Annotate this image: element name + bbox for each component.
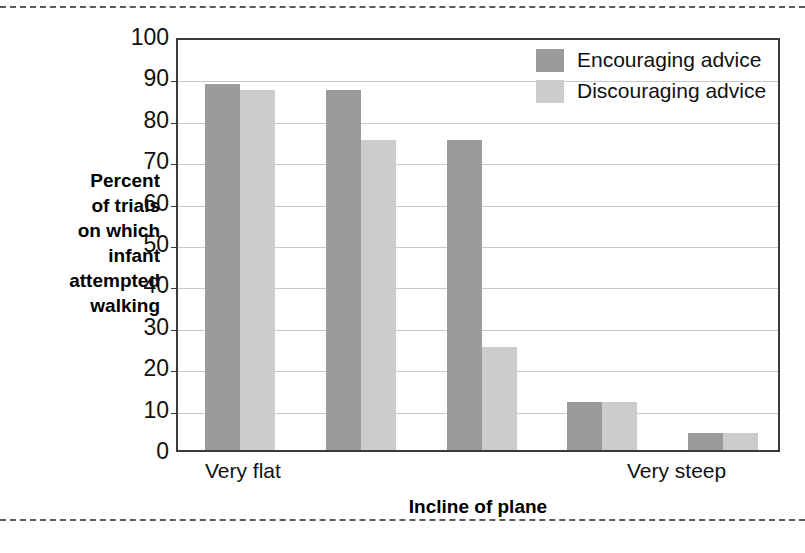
- y-axis-tick-label: 70: [49, 150, 169, 173]
- y-axis-tick-label: 80: [49, 109, 169, 132]
- legend-swatch-icon: [536, 49, 564, 72]
- legend-swatch-icon: [536, 80, 564, 103]
- y-axis-tick-label: 10: [49, 399, 169, 422]
- y-axis-tick-label: 60: [49, 192, 169, 215]
- y-axis-tick-label: 90: [49, 67, 169, 90]
- bar: [447, 140, 482, 451]
- y-axis-tick: [171, 413, 178, 414]
- y-axis-tick-label: 50: [49, 233, 169, 256]
- bar: [205, 84, 240, 450]
- legend-item-discouraging-advice: Discouraging advice: [536, 79, 766, 103]
- y-axis-tick-label: 20: [49, 357, 169, 380]
- y-axis-tick-label: 30: [49, 316, 169, 339]
- y-axis-tick: [171, 247, 178, 248]
- x-axis-title: Incline of plane: [176, 496, 780, 518]
- bar: [482, 347, 517, 451]
- y-axis-tick: [171, 330, 178, 331]
- y-axis-tick: [171, 123, 178, 124]
- bar: [326, 90, 361, 450]
- y-axis-tick: [171, 206, 178, 207]
- y-axis-tick: [171, 81, 178, 82]
- bar: [567, 402, 602, 450]
- legend-item-encouraging-advice: Encouraging advice: [536, 48, 766, 72]
- y-axis-tick: [171, 164, 178, 165]
- y-axis-tick-label: 40: [49, 274, 169, 297]
- x-axis-tick-label-very-flat: Very flat: [205, 459, 281, 483]
- bar: [361, 140, 396, 451]
- bar: [723, 433, 758, 450]
- y-axis-tick-label: 0: [49, 440, 169, 463]
- bar: [240, 90, 275, 450]
- y-axis-tick-label: 100: [49, 26, 169, 49]
- y-axis-tick: [171, 371, 178, 372]
- legend-item-label: Encouraging advice: [577, 48, 761, 72]
- legend-item-label: Discouraging advice: [577, 79, 766, 103]
- bar-chart: Percent of trials on which infant attemp…: [0, 0, 805, 553]
- x-axis-tick-label-very-steep: Very steep: [627, 459, 726, 483]
- y-axis-tick: [171, 288, 178, 289]
- bar: [688, 433, 723, 450]
- legend: Encouraging advice Discouraging advice: [536, 48, 766, 103]
- bar: [602, 402, 637, 450]
